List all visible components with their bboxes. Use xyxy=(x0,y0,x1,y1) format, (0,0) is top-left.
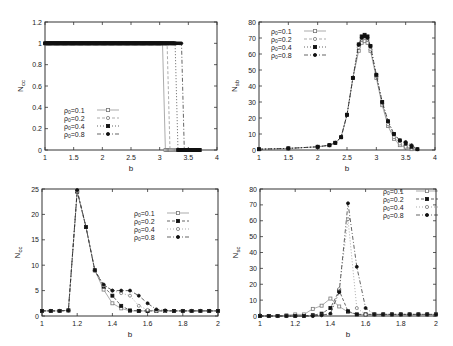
y-tick-label: 10 xyxy=(31,262,39,269)
chart-top-right: 11.522.533.5401020304050607080bNsbρ0=0.1… xyxy=(225,0,453,172)
y-tick-label: 80 xyxy=(249,186,257,193)
x-tick-label: 2 xyxy=(216,320,220,327)
y-tick-label: 60 xyxy=(249,217,257,224)
legend-label: ρ0=0.8 xyxy=(383,212,404,221)
series-2 xyxy=(41,190,220,312)
y-tick-label: 0 xyxy=(38,147,42,154)
y-tick-label: 0.6 xyxy=(32,83,42,90)
chart-bottom-left: 11.21.41.61.820510152025bNccρ0=0.1ρ0=0.2… xyxy=(0,172,228,346)
series-2 xyxy=(259,218,438,318)
y-tick-label: 20 xyxy=(249,281,257,288)
y-axis-label: Ncc xyxy=(13,247,23,259)
x-tick-label: 1.6 xyxy=(143,320,153,327)
x-axis-label: b xyxy=(346,330,351,339)
x-tick-label: 2 xyxy=(434,320,438,327)
y-tick-label: 70 xyxy=(248,35,256,42)
y-tick-label: 5 xyxy=(35,287,39,294)
y-tick-label: 25 xyxy=(31,186,39,193)
y-tick-label: 30 xyxy=(248,99,256,106)
y-tick-label: 20 xyxy=(248,115,256,122)
x-tick-label: 3 xyxy=(374,154,378,161)
x-tick-label: 1.2 xyxy=(72,320,82,327)
legend: ρ0=0.1ρ0=0.2ρ0=0.4ρ0=0.8 xyxy=(271,28,326,61)
x-tick-label: 2.5 xyxy=(126,154,136,161)
x-axis-label: b xyxy=(129,164,134,172)
y-tick-label: 0.2 xyxy=(32,125,42,132)
legend-label: ρ0=0.8 xyxy=(64,131,85,140)
y-axis-label: Nsc xyxy=(231,247,241,259)
chart-svg: 11.21.41.61.820510152025bNccρ0=0.1ρ0=0.2… xyxy=(0,172,228,346)
x-tick-label: 3 xyxy=(158,154,162,161)
plot-frame xyxy=(260,189,436,316)
y-tick-label: 15 xyxy=(31,236,39,243)
x-tick-label: 2.5 xyxy=(342,154,352,161)
x-axis-label: b xyxy=(345,164,350,172)
chart-svg: 11.21.41.61.8201020304050607080bNscρ0=0.… xyxy=(225,172,453,346)
legend: ρ0=0.1ρ0=0.2ρ0=0.4ρ0=0.8 xyxy=(383,188,438,221)
legend: ρ0=0.1ρ0=0.2ρ0=0.4ρ0=0.8 xyxy=(64,107,119,140)
y-tick-label: 60 xyxy=(248,51,256,58)
y-tick-label: 30 xyxy=(249,265,257,272)
x-tick-label: 1 xyxy=(258,320,262,327)
chart-svg: 11.522.533.5401020304050607080bNsbρ0=0.1… xyxy=(225,0,453,172)
x-tick-label: 2 xyxy=(100,154,104,161)
y-tick-label: 40 xyxy=(248,83,256,90)
y-tick-label: 0 xyxy=(253,313,257,320)
y-tick-label: 80 xyxy=(248,19,256,26)
y-tick-label: 10 xyxy=(248,131,256,138)
x-tick-label: 4 xyxy=(433,154,437,161)
y-tick-label: 10 xyxy=(249,297,257,304)
x-tick-label: 1.8 xyxy=(178,320,188,327)
chart-bottom-right: 11.21.41.61.8201020304050607080bNscρ0=0.… xyxy=(225,172,453,346)
x-tick-label: 1.4 xyxy=(108,320,118,327)
legend: ρ0=0.1ρ0=0.2ρ0=0.4ρ0=0.8 xyxy=(134,210,189,243)
y-tick-label: 0 xyxy=(35,313,39,320)
x-tick-label: 2 xyxy=(316,154,320,161)
x-axis-label: b xyxy=(128,330,133,339)
y-tick-label: 1 xyxy=(38,40,42,47)
chart-svg: 11.522.533.5400.20.40.60.811.2bNccρ0=0.1… xyxy=(0,0,228,172)
x-tick-label: 1 xyxy=(40,320,44,327)
x-tick-label: 1.4 xyxy=(326,320,336,327)
y-tick-label: 70 xyxy=(249,201,257,208)
y-tick-label: 20 xyxy=(31,211,39,218)
x-tick-label: 1.8 xyxy=(396,320,406,327)
x-tick-label: 3.5 xyxy=(183,154,193,161)
x-tick-label: 1 xyxy=(43,154,47,161)
y-axis-label: Nsb xyxy=(230,79,240,92)
x-tick-label: 3.5 xyxy=(401,154,411,161)
x-tick-label: 1.2 xyxy=(290,320,300,327)
x-tick-label: 1.5 xyxy=(69,154,79,161)
x-tick-label: 4 xyxy=(215,154,219,161)
x-tick-label: 1.5 xyxy=(283,154,293,161)
x-tick-label: 1 xyxy=(257,154,261,161)
legend-label: ρ0=0.8 xyxy=(271,52,292,61)
chart-top-left: 11.522.533.5400.20.40.60.811.2bNccρ0=0.1… xyxy=(0,0,228,172)
x-tick-label: 1.6 xyxy=(361,320,371,327)
y-tick-label: 50 xyxy=(248,67,256,74)
legend-label: ρ0=0.8 xyxy=(134,234,155,243)
y-axis-label: Ncc xyxy=(16,80,26,92)
y-tick-label: 1.2 xyxy=(32,19,42,26)
y-tick-label: 0 xyxy=(252,147,256,154)
y-tick-label: 50 xyxy=(249,233,257,240)
y-tick-label: 40 xyxy=(249,249,257,256)
y-tick-label: 0.4 xyxy=(32,104,42,111)
y-tick-label: 0.8 xyxy=(32,61,42,68)
